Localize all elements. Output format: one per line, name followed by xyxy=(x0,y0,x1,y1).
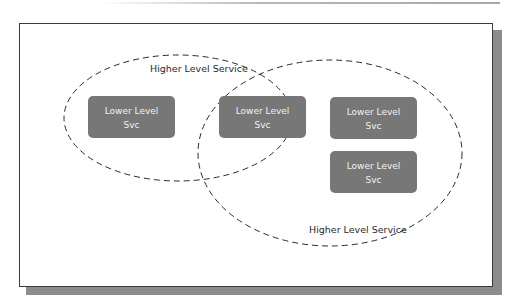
box-4-line1: Lower Level xyxy=(347,161,401,171)
lower-level-svc-box-3: Lower Level Svc xyxy=(330,97,417,139)
box-2-line1: Lower Level xyxy=(236,106,290,116)
higher-level-service-ellipse-right xyxy=(198,60,462,246)
diagram-canvas: Higher Level Service Higher Level Servic… xyxy=(0,0,517,308)
higher-level-service-label-right: Higher Level Service xyxy=(309,224,407,235)
lower-level-svc-box-2: Lower Level Svc xyxy=(219,96,306,138)
higher-level-service-label-left: Higher Level Service xyxy=(150,63,248,74)
box-4-line2: Svc xyxy=(366,175,382,185)
lower-level-svc-box-1: Lower Level Svc xyxy=(88,96,175,138)
box-3-line2: Svc xyxy=(366,121,382,131)
lower-level-svc-box-4: Lower Level Svc xyxy=(330,151,417,193)
box-1-line1: Lower Level xyxy=(105,106,159,116)
box-2-line2: Svc xyxy=(255,120,271,130)
box-3-line1: Lower Level xyxy=(347,107,401,117)
box-1-line2: Svc xyxy=(124,120,140,130)
